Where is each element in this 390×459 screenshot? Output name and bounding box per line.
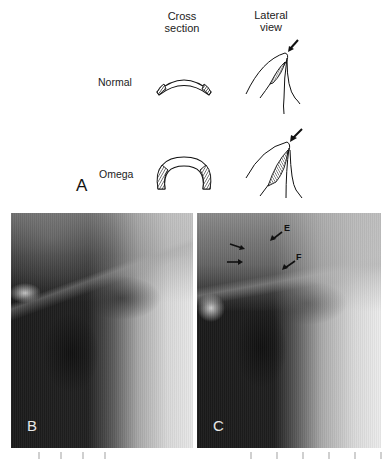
annotation-label-e: E <box>284 223 290 233</box>
normal-cross-section-drawing <box>152 72 216 98</box>
arrow-f-icon <box>282 261 295 270</box>
panel-letter-c: C <box>213 417 224 434</box>
arrow-icon <box>230 244 245 250</box>
annotation-label-f: F <box>296 252 302 262</box>
panel-c-radiograph: E F C <box>197 213 381 448</box>
cut-off-caption-fragment <box>30 452 110 459</box>
pointer-arrow-icon <box>290 129 302 142</box>
arrow-e-icon <box>270 232 282 241</box>
cut-off-caption-fragment <box>240 452 385 459</box>
omega-lateral-view-drawing <box>240 126 310 198</box>
row-label-omega: Omega <box>99 168 133 180</box>
row-label-normal: Normal <box>98 76 132 88</box>
omega-cross-section-drawing <box>152 153 216 193</box>
panel-letter-b: B <box>27 417 37 434</box>
pointer-arrow-icon <box>288 40 298 52</box>
panel-b-radiograph: B <box>11 213 193 448</box>
header-lateral-view: Lateral view <box>247 9 295 33</box>
header-cross-section: Cross section <box>158 10 206 34</box>
arrow-icon <box>227 259 243 265</box>
normal-lateral-view-drawing <box>240 38 306 118</box>
panel-letter-a: A <box>76 176 87 196</box>
